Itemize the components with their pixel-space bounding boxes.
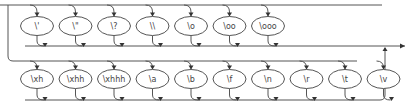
arrow-down-icon — [266, 66, 271, 70]
node-label: \' — [35, 22, 40, 31]
rail-branch-in — [261, 61, 268, 70]
rail-branch-in — [300, 61, 307, 70]
rail-branch-out — [153, 89, 160, 101]
rail-branch-in — [69, 61, 76, 70]
node-backslash: \\ — [136, 17, 169, 36]
arrow-down-icon — [227, 66, 232, 70]
node-alert: \a — [136, 70, 169, 89]
node-label: \oo — [223, 22, 236, 31]
node-carriage-return: \r — [290, 70, 323, 89]
node-backspace: \b — [175, 70, 208, 89]
rail-branch-out — [37, 89, 44, 101]
arrow-down-icon — [35, 13, 40, 17]
node-single-quote: \' — [21, 17, 54, 36]
arrow-down-icon — [35, 66, 40, 70]
node-hex-1: \xh — [21, 70, 54, 89]
rail-branch-out — [345, 89, 352, 101]
node-label: \xh — [31, 75, 44, 84]
node-label: \" — [72, 22, 78, 31]
arrow-down-icon — [150, 13, 155, 17]
node-tab: \t — [329, 70, 362, 89]
node-question-mark: \? — [98, 17, 131, 36]
node-label: \r — [304, 75, 311, 84]
rail-branch-out — [307, 89, 314, 101]
rail-branch-out — [268, 89, 275, 101]
node-hex-3: \xhhh — [98, 70, 131, 89]
railroad-diagram: \'\"\?\\\o\oo\ooo\xh\xhh\xhhh\a\b\f\n\r\… — [0, 0, 406, 108]
arrow-down-icon — [150, 66, 155, 70]
rail-branch-out — [268, 36, 275, 47]
node-octal-1: \o — [175, 17, 208, 36]
arrow-up-icon — [383, 47, 388, 51]
node-label: \? — [111, 22, 118, 31]
rail-branch-out — [153, 36, 160, 47]
node-form-feed: \f — [213, 70, 246, 89]
node-label: \xhh — [67, 75, 85, 84]
arrow-down-icon — [189, 66, 194, 70]
node-label: \o — [187, 22, 195, 31]
node-vertical-tab: \v — [367, 70, 400, 89]
arrow-down-icon — [304, 66, 309, 70]
node-octal-2: \oo — [213, 17, 246, 36]
arrow-down-icon — [112, 13, 117, 17]
node-label: \ooo — [259, 22, 276, 31]
exit-arrow-icon — [400, 44, 405, 49]
node-label: \xhhh — [103, 75, 126, 84]
rail-branch-in — [184, 61, 191, 70]
rail-branch-in — [30, 61, 37, 70]
node-newline: \n — [252, 70, 285, 89]
arrow-down-icon — [112, 66, 117, 70]
rail-branch-out — [230, 89, 237, 101]
arrow-down-icon — [73, 66, 78, 70]
node-hex-2: \xhh — [59, 70, 92, 89]
node-label: \f — [227, 75, 233, 84]
rail-branch-in — [377, 61, 384, 70]
arrow-down-icon — [343, 66, 348, 70]
rail-branch-in — [338, 61, 345, 70]
node-label: \b — [187, 75, 195, 84]
node-label: \t — [342, 75, 348, 84]
nodes: \'\"\?\\\o\oo\ooo\xh\xhh\xhhh\a\b\f\n\r\… — [21, 17, 401, 89]
rail-branch-out — [191, 36, 198, 47]
node-double-quote: \" — [59, 17, 92, 36]
node-label: \a — [149, 75, 157, 84]
node-label: \v — [380, 75, 388, 84]
rail-branch-out — [37, 36, 44, 47]
arrow-down-icon — [266, 13, 271, 17]
node-label: \n — [264, 75, 272, 84]
rail-branch-out — [76, 36, 83, 47]
rail-branch-out — [114, 36, 121, 47]
arrow-down-icon — [73, 13, 78, 17]
rail-branch-out — [230, 36, 237, 47]
node-label: \\ — [150, 22, 156, 31]
rail-branch-in — [146, 61, 153, 70]
rail-branch-in — [223, 61, 230, 70]
rail-branch-out — [191, 89, 198, 101]
rail-branch-out — [114, 89, 121, 101]
rail-branch-out — [76, 89, 83, 101]
rail-branch-in — [107, 61, 114, 70]
arrow-down-icon — [227, 13, 232, 17]
arrow-down-icon — [189, 13, 194, 17]
node-octal-3: \ooo — [252, 17, 285, 36]
